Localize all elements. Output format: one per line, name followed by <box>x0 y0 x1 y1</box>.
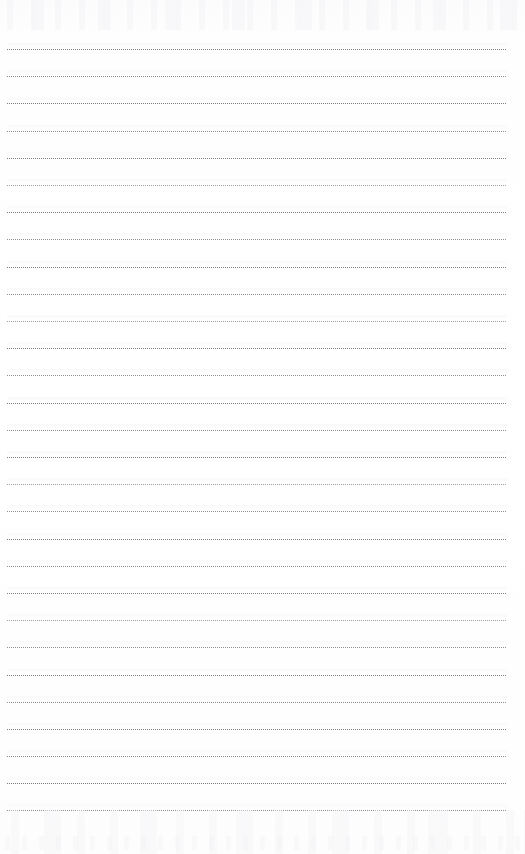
rule-line <box>7 267 507 268</box>
rule-line <box>7 484 507 485</box>
rule-line <box>7 321 507 322</box>
rule-line <box>7 593 507 594</box>
rule-line <box>7 430 507 431</box>
rule-line <box>7 756 507 757</box>
rule-line <box>7 239 507 240</box>
rule-line <box>7 131 507 132</box>
rule-line <box>7 103 507 104</box>
rule-line <box>7 348 507 349</box>
rule-line <box>7 783 507 784</box>
rule-line <box>7 511 507 512</box>
rule-line <box>7 647 507 648</box>
rule-line <box>7 185 507 186</box>
rule-line <box>7 702 507 703</box>
scan-smudge-band <box>0 836 525 850</box>
rule-line <box>7 76 507 77</box>
rule-line <box>7 620 507 621</box>
rule-line <box>7 539 507 540</box>
rule-line <box>7 403 507 404</box>
rule-line <box>7 457 507 458</box>
rule-line <box>7 294 507 295</box>
rule-line <box>7 566 507 567</box>
rule-line <box>7 729 507 730</box>
ruled-lines-container <box>0 0 525 854</box>
rule-line <box>7 675 507 676</box>
rule-line <box>7 49 507 50</box>
rule-line <box>7 212 507 213</box>
rule-line <box>7 158 507 159</box>
scanned-page <box>0 0 525 854</box>
rule-line <box>7 375 507 376</box>
